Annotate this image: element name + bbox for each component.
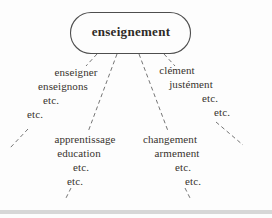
bottom-left-cluster-word-3: etc.	[73, 161, 89, 173]
right-cluster-word-2: justément	[169, 78, 213, 90]
bottom-right-cluster-word-4: etc.	[185, 175, 201, 187]
left-cluster-word-2: enseignons	[38, 80, 88, 92]
left-cluster-word-4: etc.	[27, 108, 43, 120]
right-cluster-word-4: etc.	[214, 106, 230, 118]
root-node-label: enseignement	[92, 25, 171, 39]
bottom-left-cluster-word-1: apprentissage	[54, 133, 115, 145]
bottom-right-cluster-word-3: etc.	[175, 161, 191, 173]
connector-bottom-left-cluster-tail	[66, 188, 71, 198]
left-cluster-word-1: enseigner	[54, 66, 97, 78]
bottom-left-cluster-word-2: education	[57, 147, 101, 159]
connector-root-to-left-cluster	[86, 54, 97, 66]
right-cluster-word-1: clément	[159, 64, 195, 76]
page-edge-band	[0, 210, 272, 214]
bottom-right-cluster-word-2: armement	[155, 147, 200, 159]
right-cluster-word-3: etc.	[202, 92, 218, 104]
left-cluster-word-3: etc.	[43, 94, 59, 106]
connector-left-cluster-tail	[10, 129, 28, 148]
connector-right-cluster-tail	[216, 122, 243, 145]
diagram-canvas: enseignement enseigner enseignons etc. e…	[0, 0, 272, 218]
bottom-right-cluster-word-1: changement	[143, 133, 197, 145]
bottom-left-cluster-word-4: etc.	[67, 175, 83, 187]
connector-bottom-right-cluster-tail	[185, 188, 190, 198]
